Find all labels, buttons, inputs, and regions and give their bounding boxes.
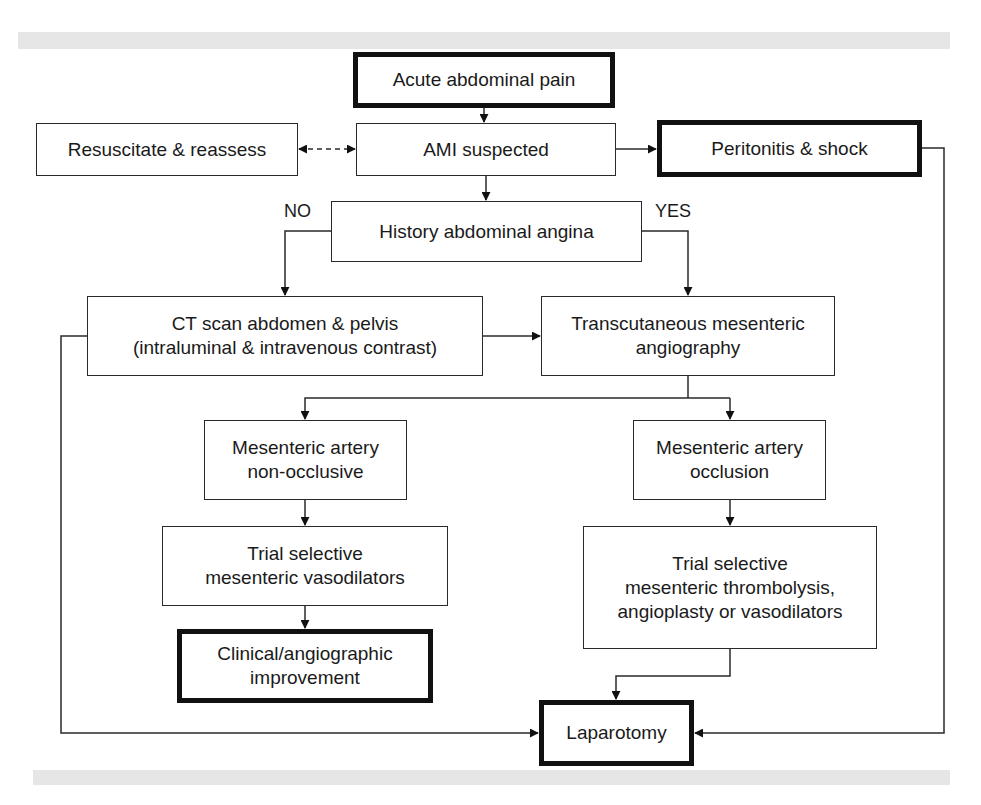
node-laparotomy: Laparotomy (539, 700, 694, 766)
node-history-abdominal-angina: History abdominal angina (331, 201, 642, 262)
label-no: NO (284, 201, 311, 222)
node-transcutaneous-angiography: Transcutaneous mesenteric angiography (541, 296, 835, 376)
node-mesenteric-nonocclusive: Mesenteric artery non-occlusive (204, 420, 407, 500)
node-trial-vasodilators: Trial selective mesenteric vasodilators (162, 526, 448, 606)
node-trial-thrombolysis: Trial selective mesenteric thrombolysis,… (583, 526, 877, 649)
node-mesenteric-occlusion: Mesenteric artery occlusion (633, 420, 826, 500)
node-acute-abdominal-pain: Acute abdominal pain (353, 52, 615, 108)
node-resuscitate-reassess: Resuscitate & reassess (36, 123, 298, 176)
node-ct-scan: CT scan abdomen & pelvis (intraluminal &… (87, 296, 483, 376)
node-clinical-improvement: Clinical/angiographic improvement (177, 629, 433, 703)
node-peritonitis-shock: Peritonitis & shock (657, 120, 922, 177)
label-yes: YES (655, 201, 691, 222)
node-ami-suspected: AMI suspected (356, 123, 616, 176)
